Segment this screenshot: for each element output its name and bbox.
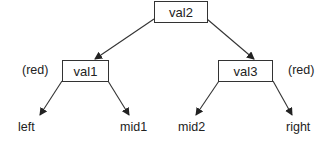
edge-val1-left [40,81,62,115]
edge-val1-mid1 [108,81,129,115]
node-val2: val2 [154,1,208,23]
leaf-mid1: mid1 [120,120,147,134]
val1-annotation: (red) [22,63,48,77]
edge-val2-val1 [95,19,154,59]
node-val2-label: val2 [169,5,193,20]
val3-annotation: (red) [288,63,314,77]
node-val1-label: val1 [74,64,98,79]
node-val3-label: val3 [234,64,258,79]
edge-val2-val3 [207,19,254,59]
node-val3: val3 [218,60,273,82]
node-val1: val1 [62,60,109,82]
leaf-right: right [286,120,310,134]
leaf-left: left [18,120,35,134]
leaf-mid2: mid2 [178,120,205,134]
edge-val3-mid2 [196,81,219,115]
edge-val3-right [273,81,292,115]
